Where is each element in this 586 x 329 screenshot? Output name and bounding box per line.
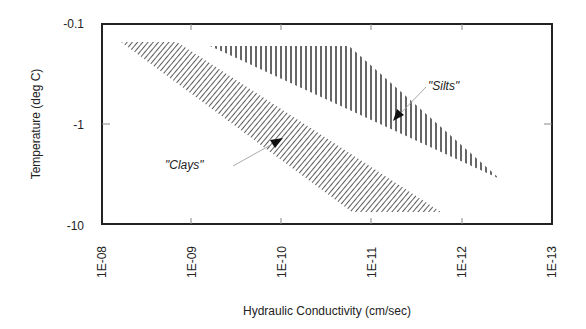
- y-tick-label: -10: [67, 219, 85, 233]
- x-tick-label: 1E-12: [455, 246, 469, 278]
- clays-arrow-line: [233, 142, 276, 166]
- x-tick-label: 1E-11: [365, 247, 379, 278]
- x-tick-label: 1E-10: [275, 246, 289, 278]
- y-tick-label: -0.1: [63, 17, 84, 31]
- x-axis-title: Hydraulic Conductivity (cm/sec): [243, 304, 411, 318]
- clays-annotation: "Clays": [165, 158, 204, 172]
- y-tick-label: -1: [73, 118, 84, 132]
- x-tick-label: 1E-08: [95, 246, 109, 278]
- y-axis-title: Temperature (deg C): [29, 69, 43, 180]
- x-tick-label: 1E-09: [185, 246, 199, 278]
- x-tick-label: 1E-13: [545, 246, 559, 278]
- chart-canvas: -0.1 -1 -10 1E-08 1E-09 1E-10 1E-11 1E-1…: [0, 0, 586, 329]
- silts-annotation: "Silts": [428, 79, 460, 93]
